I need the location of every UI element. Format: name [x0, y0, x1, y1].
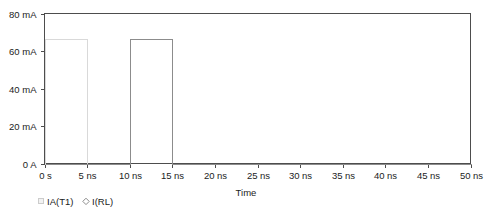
x-tick-label: 40 ns	[374, 170, 397, 181]
y-tick-labels: 80 mA60 mA40 mA20 mA0 A	[9, 9, 37, 170]
legend-marker-diamond-icon	[83, 198, 89, 204]
y-tick-label: 0 A	[23, 159, 37, 170]
series-line-i-rl	[46, 40, 472, 165]
y-tick-label: 20 mA	[9, 121, 37, 132]
plot-frame	[45, 14, 471, 164]
x-tick-labels: 0 s5 ns10 ns15 ns20 ns25 ns30 ns35 ns40 …	[39, 170, 483, 181]
legend-label-ia-t1: IA(T1)	[47, 196, 73, 207]
chart-legend: IA(T1) I(RL)	[39, 196, 114, 207]
x-tick-label: 5 ns	[79, 170, 97, 181]
x-tick-label: 25 ns	[247, 170, 270, 181]
data-series-group	[46, 40, 472, 165]
y-axis-ticks	[41, 15, 45, 165]
series-line-ia-t1	[46, 40, 472, 165]
legend-label-i-rl: I(RL)	[92, 196, 113, 207]
chart-canvas: 80 mA60 mA40 mA20 mA0 A 0 s5 ns10 ns15 n…	[0, 0, 493, 214]
x-tick-label: 20 ns	[204, 170, 227, 181]
plot-border	[45, 14, 471, 164]
x-tick-label: 15 ns	[161, 170, 184, 181]
x-tick-label: 35 ns	[332, 170, 355, 181]
y-tick-label: 40 mA	[9, 84, 37, 95]
x-tick-label: 50 ns	[460, 170, 483, 181]
x-tick-label: 30 ns	[289, 170, 312, 181]
legend-marker-square-icon	[39, 199, 44, 204]
waveform-chart: 80 mA60 mA40 mA20 mA0 A 0 s5 ns10 ns15 n…	[0, 0, 493, 214]
y-tick-label: 80 mA	[9, 9, 37, 20]
x-axis-title: Time	[236, 187, 257, 198]
y-tick-label: 60 mA	[9, 46, 37, 57]
x-tick-label: 10 ns	[119, 170, 142, 181]
x-tick-label: 45 ns	[417, 170, 440, 181]
x-tick-label: 0 s	[39, 170, 52, 181]
